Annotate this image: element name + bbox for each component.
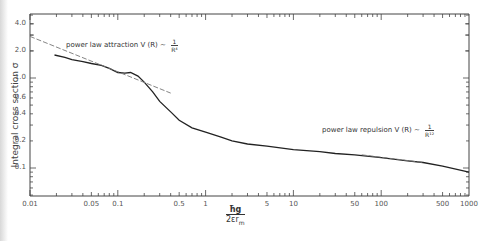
x-tick-label: 100 [369,200,393,208]
plot-series [30,36,469,172]
attraction-denominator: R⁴ [171,46,178,53]
x-axis-label: ħg 2εrm [226,205,245,226]
x-tick-label: 1 [194,200,218,208]
y-tick-label: 0.4 [4,109,26,117]
repulsion-fraction: 1 R¹² [425,123,434,138]
repulsion-label: power law repulsion V (R) ~ [322,126,420,134]
y-tick-label: 2.0 [4,46,26,54]
x-tick-label: 0.01 [18,200,42,208]
y-tick-label: 0.2 [4,136,26,144]
x-label-den-text: 2εr [226,215,239,224]
x-label-denominator: 2εrm [226,215,245,226]
x-tick-label: 5 [255,200,279,208]
attraction-numerator: 1 [171,38,178,46]
repulsion-denominator: R¹² [425,131,434,138]
x-tick-label: 0.1 [106,200,130,208]
x-tick-label: 1000 [457,200,481,208]
attraction-annotation: power law attraction V (R) ~ 1 R⁴ [66,38,178,53]
x-label-subscript: m [239,219,245,226]
x-tick-label: 500 [431,200,455,208]
repulsion-annotation: power law repulsion V (R) ~ 1 R¹² [322,123,434,138]
series-line-2 [362,155,423,163]
x-tick-label: 0.5 [167,200,191,208]
y-tick-label: 0.6 [4,93,26,101]
x-tick-label: 50 [343,200,367,208]
attraction-fraction: 1 R⁴ [171,38,178,53]
x-tick-label: 0.05 [79,200,103,208]
cross-section-chart [0,0,493,241]
y-tick-label: 0.1 [4,163,26,171]
x-label-numerator: ħg [226,205,245,215]
y-tick-label: 1.0 [4,73,26,81]
attraction-label: power law attraction V (R) ~ [66,41,166,49]
x-tick-label: 10 [281,200,305,208]
series-line-0 [55,55,470,172]
repulsion-numerator: 1 [425,123,434,131]
y-tick-label: 4.0 [4,19,26,27]
